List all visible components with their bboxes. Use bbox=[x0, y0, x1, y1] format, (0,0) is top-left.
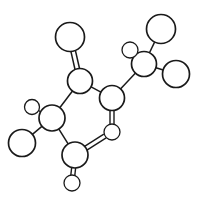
atom-a11 bbox=[9, 130, 36, 157]
atom-a10 bbox=[25, 100, 40, 115]
atom-a4 bbox=[104, 124, 120, 140]
atom-a8 bbox=[163, 61, 190, 88]
atom-a2 bbox=[68, 69, 93, 94]
molecule-figure bbox=[0, 0, 199, 206]
atom-a1 bbox=[56, 23, 85, 52]
atom-a12 bbox=[62, 142, 88, 168]
atom-a6 bbox=[122, 42, 138, 58]
molecule-canvas bbox=[0, 0, 199, 206]
atom-a13 bbox=[64, 175, 80, 191]
atom-a7 bbox=[147, 15, 176, 44]
atom-a9 bbox=[39, 105, 65, 131]
atom-a3 bbox=[100, 86, 125, 111]
